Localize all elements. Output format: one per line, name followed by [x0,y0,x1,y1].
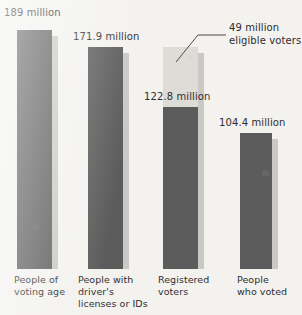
bar-fill [17,30,52,269]
bar-group-people-with-licenses [88,47,129,269]
bar-category-label-1: People of voting age [14,274,84,298]
bar-category-label-3: Registered voters [158,274,234,298]
bar-value-label-1: 189 million [4,7,61,19]
bar-fill [88,47,123,269]
bar-group-registered-voters [163,47,204,269]
bar-value-label-4: 104.4 million [219,117,285,129]
bar-fill [163,107,198,269]
bar-value-label-2: 171.9 million [73,31,139,43]
bar-category-label-4: People who voted [237,274,302,298]
callout-eligible-voters: 49 million eligible voters [229,22,301,47]
bar-group-people-who-voted [240,133,278,269]
bar-category-label-2: People with driver's licenses or IDs [78,274,158,310]
bar-value-label-3: 122.8 million [144,91,210,103]
bar-group-people-of-voting-age [17,30,58,269]
bar-fill [240,133,272,269]
bar-chart: 189 million People of voting age 171.9 m… [0,0,302,315]
